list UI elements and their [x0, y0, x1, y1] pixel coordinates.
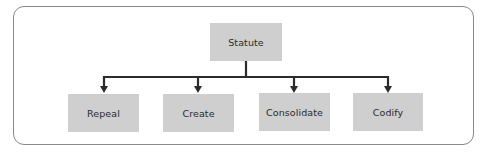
node-consolidate: Consolidate: [259, 93, 330, 131]
arrowhead-repeal-icon: [100, 86, 108, 93]
node-repeal: Repeal: [68, 94, 139, 132]
node-create: Create: [163, 94, 234, 132]
node-statute-label: Statute: [228, 37, 264, 48]
arrowhead-consolidate-icon: [290, 86, 298, 93]
node-codify: Codify: [353, 93, 423, 131]
node-consolidate-label: Consolidate: [266, 107, 323, 118]
arrowhead-codify-icon: [384, 86, 392, 93]
arrowhead-create-icon: [194, 86, 202, 93]
node-create-label: Create: [182, 108, 214, 119]
node-repeal-label: Repeal: [87, 108, 120, 119]
node-codify-label: Codify: [373, 107, 404, 118]
node-statute: Statute: [210, 23, 282, 61]
